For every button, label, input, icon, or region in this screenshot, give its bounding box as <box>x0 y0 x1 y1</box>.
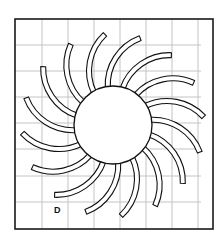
sun-ray <box>143 79 206 142</box>
sun-ray <box>97 155 160 218</box>
diagram-label: D <box>54 205 61 215</box>
sun-ray <box>21 109 84 172</box>
sun-circle <box>74 86 152 164</box>
pinwheel-sun-diagram <box>0 0 224 247</box>
